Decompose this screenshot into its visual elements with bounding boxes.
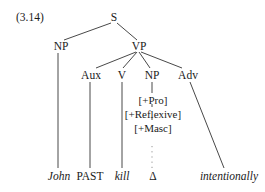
edge-s-np bbox=[64, 23, 111, 40]
leaf-john: John bbox=[48, 170, 71, 182]
syntax-tree: (3.14) S NP VP Aux V NP Adv [+Pro] [+Ref… bbox=[0, 0, 265, 192]
feature-reflexive: [+Reflexive] bbox=[125, 108, 181, 120]
edge-adv-intentionally bbox=[190, 82, 224, 168]
feature-masc: [+Masc] bbox=[134, 122, 171, 134]
example-number: (3.14) bbox=[16, 11, 44, 24]
leaf-past: PAST bbox=[76, 170, 103, 182]
feature-pro: [+Pro] bbox=[139, 94, 168, 106]
leaf-kill: kill bbox=[115, 170, 130, 182]
node-np-subject: NP bbox=[54, 40, 69, 52]
leaf-delta: Δ bbox=[149, 170, 156, 182]
leaf-intentionally: intentionally bbox=[200, 170, 259, 183]
node-aux: Aux bbox=[81, 69, 101, 81]
node-s: S bbox=[111, 11, 117, 23]
node-v: V bbox=[118, 69, 127, 81]
node-adv: Adv bbox=[178, 69, 198, 81]
edge-vp-adv bbox=[141, 52, 182, 68]
node-vp: VP bbox=[132, 40, 147, 52]
node-np-object: NP bbox=[145, 69, 160, 81]
edge-s-vp bbox=[117, 23, 137, 40]
